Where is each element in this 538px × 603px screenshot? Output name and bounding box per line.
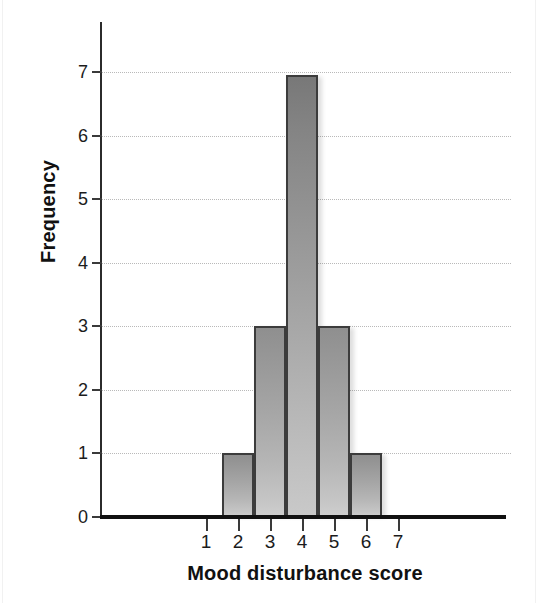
x-tick-7 [398, 519, 400, 531]
x-tick-5 [334, 519, 336, 531]
y-tick-label-7: 7 [60, 63, 88, 81]
page-edge-left [2, 0, 3, 603]
y-tick-label-0: 0 [60, 508, 88, 526]
y-tick-label-2: 2 [60, 381, 88, 399]
x-tick-label-2: 2 [223, 532, 253, 551]
y-tick-3 [92, 325, 102, 327]
page-edge-right [535, 0, 536, 603]
x-tick-label-3: 3 [255, 532, 285, 551]
y-axis-title: Frequency [37, 132, 60, 292]
y-tick-2 [92, 389, 102, 391]
bar-bin-5 [318, 326, 350, 517]
gridline-7 [100, 72, 511, 73]
y-tick-label-4: 4 [60, 254, 88, 272]
x-tick-6 [366, 519, 368, 531]
y-tick-6 [92, 135, 102, 137]
y-tick-label-1: 1 [60, 444, 88, 462]
bar-bin-4 [286, 75, 318, 517]
y-axis-line [100, 22, 102, 519]
x-tick-label-5: 5 [319, 532, 349, 551]
bar-bin-2 [222, 453, 254, 517]
x-tick-2 [238, 519, 240, 531]
y-tick-4 [92, 262, 102, 264]
y-tick-label-6: 6 [60, 127, 88, 145]
y-tick-5 [92, 198, 102, 200]
x-axis-title: Mood disturbance score [100, 562, 510, 585]
y-tick-label-5: 5 [60, 190, 88, 208]
x-tick-label-7: 7 [383, 532, 413, 551]
x-tick-label-4: 4 [287, 532, 317, 551]
y-tick-label-3: 3 [60, 317, 88, 335]
x-tick-label-6: 6 [351, 532, 381, 551]
x-axis-line [100, 515, 506, 519]
x-tick-3 [270, 519, 272, 531]
y-tick-7 [92, 71, 102, 73]
bar-bin-6 [350, 453, 382, 517]
bar-bin-3 [254, 326, 286, 517]
y-tick-1 [92, 452, 102, 454]
x-tick-4 [302, 519, 304, 531]
x-tick-label-1: 1 [191, 532, 221, 551]
histogram-figure: 0 1 2 3 4 5 6 7 1 2 3 4 5 6 7 Mood distu… [0, 0, 538, 603]
x-tick-1 [206, 519, 208, 531]
